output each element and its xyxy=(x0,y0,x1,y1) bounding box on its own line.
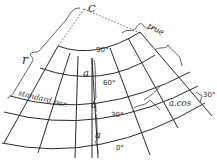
true-label: true xyxy=(146,22,165,37)
apex-left-construction-line xyxy=(58,9,84,46)
latitude-label-30: 30° xyxy=(111,111,123,119)
radius-brace xyxy=(8,8,80,99)
meridian-a-label-mid: a xyxy=(91,99,97,110)
meridian-4 xyxy=(110,48,150,155)
parallel-acos-label: a.cos xyxy=(169,98,192,108)
meridian-a-label-lower: a xyxy=(95,129,101,140)
conic-projection-diagram: C r true standard par. a a a a.cos 30° 9… xyxy=(0,0,217,160)
meridian-3 xyxy=(75,56,78,158)
radius-label: r xyxy=(22,53,29,67)
parallel-0 xyxy=(2,103,205,149)
acos-brace-b xyxy=(144,86,160,100)
true-brace-lower xyxy=(155,45,182,66)
standard-parallel-label: standard par. xyxy=(18,88,69,109)
latitude-label-0: 0° xyxy=(116,144,124,152)
latitude-label-60: 60° xyxy=(103,79,115,87)
meridian-a-label-upper: a xyxy=(83,67,89,78)
angle-label: 30° xyxy=(203,91,215,99)
latitude-label-90: 90° xyxy=(96,46,108,54)
meridian-5 xyxy=(128,38,178,128)
parallel-mid-upper xyxy=(40,55,155,76)
apex-label: C xyxy=(88,3,96,14)
